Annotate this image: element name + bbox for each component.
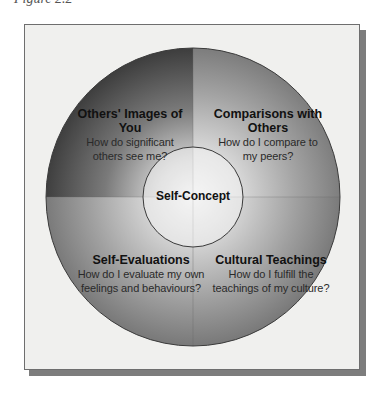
comparisons-label: Comparisons with Others How do I compare… [205,107,331,163]
quadrant-title: Others [205,121,331,135]
others-images-label: Others' Images of You How do significant… [68,107,192,163]
cultural-teachings-label: Cultural Teachings How do I fulfill the … [206,253,336,295]
quadrant-title: Comparisons with [205,107,331,121]
quadrant-question: teachings of my culture? [206,281,336,295]
quadrant-question: my peers? [205,149,331,163]
quadrant-title: Self-Evaluations [76,253,206,267]
quadrant-title: Others' Images of You [68,107,192,135]
quadrant-question: How do I fulfill the [206,267,336,281]
quadrant-question: others see me? [68,149,192,163]
self-concept-label: Self-Concept [143,189,243,203]
quadrant-question: How do I evaluate my own [76,267,206,281]
quadrant-question: How do significant [68,135,192,149]
quadrant-question: feelings and behaviours? [76,281,206,295]
quadrant-title: Cultural Teachings [206,253,336,267]
self-evaluations-label: Self-Evaluations How do I evaluate my ow… [76,253,206,295]
quadrant-question: How do I compare to [205,135,331,149]
